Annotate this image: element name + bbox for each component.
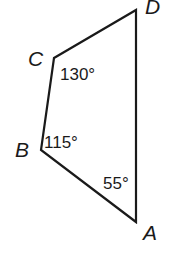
angle-label-a: 55°: [103, 174, 129, 193]
vertex-label-a: A: [141, 221, 157, 244]
vertex-label-b: B: [15, 138, 29, 161]
angle-label-b: 115°: [44, 133, 78, 152]
vertex-label-d: D: [145, 0, 160, 18]
quadrilateral-diagram: A B C D 130° 115° 55°: [0, 0, 172, 272]
angle-label-c: 130°: [60, 65, 95, 84]
vertex-label-c: C: [28, 47, 44, 70]
